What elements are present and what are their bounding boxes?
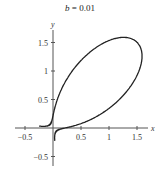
x-tick-label: 0.5 — [76, 133, 86, 142]
curve-loop-branch — [39, 37, 142, 128]
folium-chart: b = 0.01 x y −0.50.511.5 −0.50.511.5 — [0, 0, 157, 170]
y-ticks: −0.50.511.5 — [33, 39, 55, 162]
y-tick-label: 1 — [44, 67, 48, 76]
curve-lower-branch — [55, 128, 65, 141]
y-axis-label: y — [50, 20, 55, 29]
title-rest: = 0.01 — [70, 3, 95, 13]
x-tick-label: 1.5 — [132, 133, 142, 142]
chart-title: b = 0.01 — [65, 3, 95, 13]
x-axis-label: x — [150, 124, 155, 133]
y-tick-label: −0.5 — [33, 153, 48, 162]
y-tick-label: 1.5 — [38, 39, 48, 48]
x-tick-label: 1 — [107, 133, 111, 142]
x-tick-label: −0.5 — [18, 133, 33, 142]
y-tick-label: 0.5 — [38, 96, 48, 105]
